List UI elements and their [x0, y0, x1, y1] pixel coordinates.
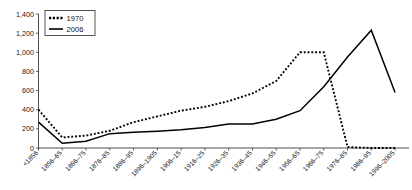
chart-legend: 19702006	[45, 11, 95, 36]
y-tick-label: 1,200	[16, 29, 34, 38]
y-tick-label: 200	[22, 124, 34, 133]
y-tick-label: 800	[22, 67, 34, 76]
x-tick-label: 1996–2005	[367, 149, 396, 178]
x-tick-label: 1966–75	[301, 149, 324, 172]
y-axis: 02004006008001,0001,2001,400	[16, 10, 39, 153]
x-tick-label: 1936–45	[230, 149, 253, 172]
chart-canvas: 02004006008001,0001,2001,400 <18561856–6…	[0, 0, 412, 190]
x-tick-label: 1946–55	[254, 149, 277, 172]
y-tick-label: 400	[22, 105, 34, 114]
x-tick-label: 1876–85	[87, 149, 110, 172]
legend-label-2006: 2006	[67, 25, 84, 34]
y-axis-tick-labels: 02004006008001,0001,2001,400	[16, 10, 34, 153]
x-axis-tick-labels: <18561856–651866–751876–851886–951896–19…	[21, 149, 396, 178]
y-tick-label: 1,000	[16, 48, 34, 57]
x-tick-label: 1856–65	[40, 149, 63, 172]
series-line-1970	[39, 52, 396, 148]
x-tick-label: 1916–25	[182, 149, 205, 172]
x-tick-label: 1926–35	[206, 149, 229, 172]
x-tick-label: 1866–75	[64, 149, 87, 172]
x-tick-label: 1896–1905	[130, 149, 159, 178]
x-tick-label: 1986–95	[349, 149, 372, 172]
x-tick-label: 1956–65	[278, 149, 301, 172]
x-tick-label: 1886–95	[111, 149, 134, 172]
x-tick-label: 1906–15	[159, 149, 182, 172]
legend-label-1970: 1970	[67, 14, 84, 23]
data-series-group	[39, 30, 396, 148]
x-tick-label: 1976–85	[325, 149, 348, 172]
y-tick-label: 1,400	[16, 10, 34, 19]
x-axis: <18561856–651866–751876–851886–951896–19…	[21, 148, 409, 178]
y-tick-label: 600	[22, 86, 34, 95]
line-chart: 02004006008001,0001,2001,400 <18561856–6…	[0, 0, 412, 190]
